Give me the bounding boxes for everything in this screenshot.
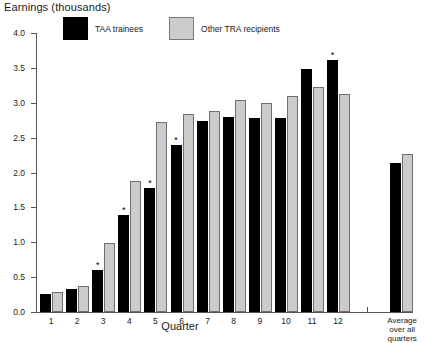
bar-taa-trainees [92,270,103,312]
bar-other-tra-recipients [339,94,350,312]
legend-label-other-tra-recipients: Other TRA recipients [201,24,280,34]
bar-taa-trainees [197,121,208,312]
y-tick-label: 3.5 [13,63,25,73]
bar-group [249,33,272,312]
bar-group: * [144,33,167,312]
y-tick [31,312,37,313]
bar-other-tra-recipients [130,181,141,312]
x-tick-label-line: quarters [379,334,424,343]
significance-asterisk: * [92,262,103,269]
y-tick-label: 0.0 [13,307,25,317]
axis-break-tick [367,307,368,313]
bar-group [223,33,246,312]
bar-taa-trainees [275,118,286,312]
significance-asterisk: * [171,137,182,144]
bar-other-tra-recipients [235,100,246,312]
bar-other-tra-recipients [156,122,167,312]
y-tick-label: 4.0 [13,28,25,38]
bar-group: * [118,33,141,312]
bar-group [197,33,220,312]
bar-group [275,33,298,312]
bar-taa-trainees [40,294,51,312]
bar-group [66,33,89,312]
bar-taa-trainees [171,145,182,312]
bar-other-tra-recipients [313,87,324,312]
bar-taa-trainees [249,118,260,312]
y-tick-label: 2.0 [13,168,25,178]
bar-other-tra-recipients [78,286,89,313]
y-axis-title: Earnings (thousands) [4,1,111,13]
significance-asterisk: * [144,180,155,187]
bar-group: * [171,33,194,312]
plot-area: 0.00.51.01.52.02.53.03.54.0 ***** [36,33,413,313]
bar-taa-trainees [223,117,234,312]
legend-label-taa-trainees: TAA trainees [95,24,143,34]
bar-series-container: ***** [37,33,413,312]
bar-group: * [327,33,350,312]
y-tick-label: 1.0 [13,237,25,247]
significance-asterisk: * [118,207,129,214]
y-tick-label: 2.5 [13,133,25,143]
x-axis-title: Quarter [0,320,424,332]
bar-other-tra-recipients [287,96,298,312]
bar-taa-trainees [327,60,338,312]
y-tick-label: 3.0 [13,98,25,108]
significance-asterisk: * [327,52,338,59]
bar-taa-trainees [118,215,129,312]
bar-other-tra-recipients [209,111,220,312]
bar-other-tra-recipients [183,114,194,312]
bar-other-tra-recipients [402,154,413,312]
x-axis-line [36,312,413,313]
bar-other-tra-recipients [52,292,63,312]
bar-group: * [92,33,115,312]
bar-taa-trainees [390,163,401,312]
bar-group [40,33,63,312]
bar-other-tra-recipients [104,243,115,312]
bar-other-tra-recipients [261,103,272,312]
bar-taa-trainees [301,69,312,312]
bar-group [390,33,413,312]
bar-group [301,33,324,312]
x-axis-title-text: Quarter [161,320,198,332]
y-tick-label: 1.5 [13,202,25,212]
bar-taa-trainees [144,188,155,312]
bar-taa-trainees [66,289,77,312]
y-tick-label: 0.5 [13,272,25,282]
